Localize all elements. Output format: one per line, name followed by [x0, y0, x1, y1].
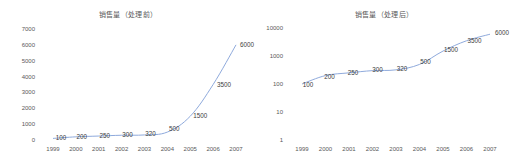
- y-tick-label: 100: [273, 81, 284, 87]
- data-label: 500: [169, 125, 180, 132]
- y-tick-label: 10000: [266, 25, 283, 31]
- x-tick-label: 2005: [436, 146, 450, 152]
- x-tick-label: 1999: [295, 146, 309, 152]
- data-label: 1500: [193, 112, 208, 119]
- data-label: 100: [303, 81, 314, 88]
- line-plot-log: 1101001000100001999200020012002200320042…: [256, 0, 512, 163]
- data-label: 6000: [495, 29, 510, 36]
- y-tick-label: 3000: [22, 89, 36, 95]
- x-tick-label: 2002: [115, 146, 129, 152]
- series-line: [53, 45, 236, 139]
- data-label: 320: [145, 130, 156, 137]
- data-label: 200: [77, 133, 88, 140]
- y-tick-label: 7000: [22, 26, 36, 32]
- x-tick-label: 2006: [460, 146, 474, 152]
- x-tick-label: 2005: [184, 146, 198, 152]
- y-tick-label: 4000: [22, 74, 36, 80]
- y-tick-label: 1: [280, 137, 284, 143]
- x-tick-label: 2007: [483, 146, 497, 152]
- data-label: 300: [122, 131, 133, 138]
- chart-after-processing: 销售量（处理后） 1101001000100001999200020012002…: [256, 0, 512, 163]
- x-tick-label: 2001: [92, 146, 106, 152]
- data-label: 300: [372, 66, 383, 73]
- data-label: 250: [348, 69, 359, 76]
- data-label: 200: [324, 73, 335, 80]
- x-tick-label: 2000: [319, 146, 333, 152]
- data-label: 3500: [467, 37, 482, 44]
- y-tick-label: 10: [276, 109, 283, 115]
- chart-before-processing: 销售量（处理前） 0100020003000400050006000700019…: [0, 0, 256, 163]
- x-tick-label: 1999: [46, 146, 60, 152]
- x-tick-label: 2000: [69, 146, 83, 152]
- x-tick-label: 2007: [229, 146, 243, 152]
- data-label: 100: [56, 134, 67, 141]
- y-tick-label: 5000: [22, 58, 36, 64]
- data-label: 250: [99, 132, 110, 139]
- line-plot-linear: 0100020003000400050006000700019992000200…: [0, 0, 256, 163]
- x-tick-label: 2006: [206, 146, 220, 152]
- x-tick-label: 2004: [413, 146, 427, 152]
- x-tick-label: 2003: [389, 146, 403, 152]
- y-tick-label: 2000: [22, 105, 36, 111]
- data-label: 500: [420, 58, 431, 65]
- data-label: 6000: [240, 41, 255, 48]
- x-tick-label: 2002: [366, 146, 380, 152]
- y-tick-label: 6000: [22, 42, 36, 48]
- data-label: 320: [397, 65, 408, 72]
- x-tick-label: 2003: [138, 146, 152, 152]
- data-label: 3500: [217, 81, 232, 88]
- y-tick-label: 0: [32, 137, 36, 143]
- y-tick-label: 1000: [22, 121, 36, 127]
- data-label: 1500: [444, 46, 459, 53]
- x-tick-label: 2001: [342, 146, 356, 152]
- x-tick-label: 2004: [161, 146, 175, 152]
- y-tick-label: 1000: [270, 53, 284, 59]
